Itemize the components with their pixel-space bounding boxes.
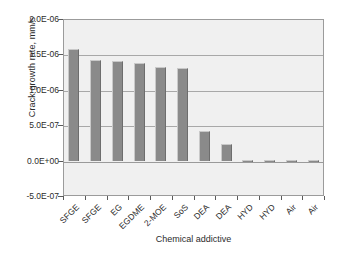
bar [308,160,319,162]
x-tick-mark [150,196,151,200]
y-tick-label: 0.0E+00 [3,156,59,166]
x-tick-mark [281,196,282,200]
bar [112,61,123,160]
bar-chart: Crack growth rate, mm/s 2.0E-061.5E-061.… [0,0,338,255]
y-tick-label: 2.0E-06 [3,14,59,24]
x-axis-title: Chemical addictive [63,234,324,244]
bar [242,160,253,162]
x-tick-label-text: EG [109,202,125,218]
bar [68,49,79,161]
x-tick-mark [302,196,303,200]
bar [177,68,188,161]
bar [264,160,275,162]
x-tick-mark [172,196,173,200]
bar [90,60,101,161]
x-tick-mark [107,196,108,200]
bar [199,131,210,161]
x-tick-mark [85,196,86,200]
x-tick-mark [259,196,260,200]
x-tick-label-text: Air [284,202,298,216]
bar [286,160,297,162]
y-tick-label: 5.0E-07 [3,120,59,130]
y-tick-label: 1.0E-06 [3,85,59,95]
bar [221,144,232,160]
x-tick-mark [324,196,325,200]
bar-series [63,19,324,196]
x-tick-label-text: Air [306,202,320,216]
y-tick-label: -5.0E-07 [3,191,59,201]
bar [155,67,166,160]
y-tick-label: 1.5E-06 [3,49,59,59]
x-tick-mark [63,196,64,200]
x-tick-mark [237,196,238,200]
bar [134,63,145,161]
x-tick-mark [194,196,195,200]
x-tick-mark [215,196,216,200]
x-tick-mark [128,196,129,200]
